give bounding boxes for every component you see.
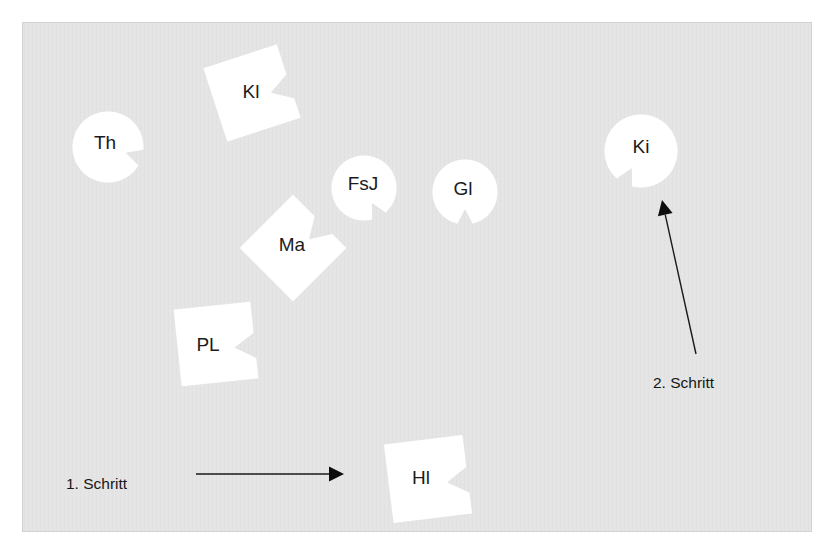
shape-label-hl: Hl [412, 467, 430, 488]
shape-label-pl: PL [196, 334, 219, 355]
shape-th[interactable]: Th [72, 111, 144, 183]
diagram-svg: ThKlFsJGlKiMaPLHl 1. Schritt2. Schritt [0, 0, 834, 556]
shape-label-fsj: FsJ [348, 173, 379, 194]
diagram-canvas: ThKlFsJGlKiMaPLHl 1. Schritt2. Schritt [0, 0, 834, 556]
shape-ki[interactable]: Ki [604, 114, 678, 188]
shape-fsj[interactable]: FsJ [331, 155, 397, 221]
shape-label-kl: Kl [243, 81, 260, 102]
shape-label-ki: Ki [633, 136, 650, 157]
shape-label-th: Th [94, 132, 116, 153]
arrow-step-2-label: 2. Schritt [653, 374, 715, 391]
shape-label-gl: Gl [454, 178, 473, 199]
shape-label-ma: Ma [279, 234, 306, 255]
arrow-step-1-label: 1. Schritt [66, 475, 128, 492]
